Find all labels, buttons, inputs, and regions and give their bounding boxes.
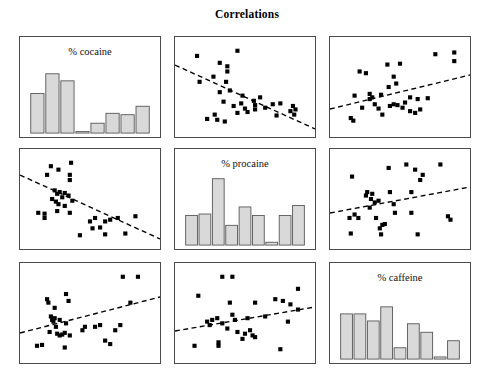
- data-point: [224, 80, 228, 84]
- data-point: [68, 211, 72, 215]
- data-point: [364, 193, 368, 197]
- data-point: [452, 50, 456, 54]
- panel-canvas: [20, 149, 160, 249]
- data-point: [245, 316, 249, 320]
- data-point: [379, 93, 383, 97]
- histogram-bar: [367, 321, 379, 359]
- data-point: [448, 218, 452, 222]
- data-point: [292, 113, 296, 117]
- data-point: [393, 211, 397, 215]
- trend-line: [330, 75, 470, 109]
- data-point: [45, 173, 49, 177]
- data-point: [63, 331, 67, 335]
- data-point: [223, 119, 227, 123]
- data-point: [50, 197, 54, 201]
- data-point: [196, 294, 200, 298]
- data-point: [230, 275, 234, 279]
- histogram-bar: [252, 215, 264, 245]
- data-point: [36, 211, 40, 215]
- data-point: [68, 178, 72, 182]
- panel-canvas: [20, 263, 160, 363]
- data-point: [352, 94, 356, 98]
- data-point: [258, 95, 262, 99]
- data-point: [68, 173, 72, 177]
- trend-line: [330, 187, 470, 213]
- data-point: [64, 321, 68, 325]
- histogram-bar: [394, 348, 406, 359]
- data-point: [278, 101, 282, 105]
- data-point: [35, 344, 39, 348]
- data-point: [253, 107, 257, 111]
- histogram-bar: [76, 132, 89, 133]
- data-point: [216, 344, 220, 348]
- data-point: [210, 318, 214, 322]
- data-point: [220, 321, 224, 325]
- data-point: [225, 64, 229, 68]
- data-point: [263, 314, 267, 318]
- histogram-bar: [341, 314, 353, 359]
- data-point: [103, 219, 107, 223]
- data-point: [197, 80, 201, 84]
- data-point: [80, 328, 84, 332]
- data-point: [288, 302, 292, 306]
- data-point: [228, 88, 232, 92]
- data-point: [49, 164, 53, 168]
- data-point: [113, 328, 117, 332]
- data-point: [378, 226, 382, 230]
- data-point: [239, 101, 243, 105]
- data-point: [240, 94, 244, 98]
- panel-canvas: [330, 37, 470, 137]
- data-point: [376, 199, 380, 203]
- data-point: [218, 61, 222, 65]
- panel-canvas: [175, 149, 315, 249]
- data-point: [233, 318, 237, 322]
- histogram-bar: [239, 207, 251, 245]
- scatterplot-matrix: Correlations % cocaine% procaine% caffei…: [0, 0, 494, 374]
- data-point: [426, 96, 430, 100]
- data-point: [388, 104, 392, 108]
- data-point: [123, 231, 127, 235]
- histogram-bar: [448, 341, 460, 359]
- trend-line: [175, 307, 315, 331]
- data-point: [438, 162, 442, 166]
- data-point: [68, 333, 72, 337]
- data-point: [418, 178, 422, 182]
- data-point: [350, 175, 354, 179]
- data-point: [55, 209, 59, 213]
- data-point: [271, 102, 275, 106]
- trend-line: [175, 65, 315, 129]
- data-point: [93, 216, 97, 220]
- data-point: [48, 330, 52, 334]
- histogram-bar: [199, 214, 211, 245]
- data-point: [252, 99, 256, 103]
- data-point: [66, 193, 70, 197]
- data-point: [70, 199, 74, 203]
- data-point: [408, 109, 412, 113]
- data-point: [352, 212, 356, 216]
- data-point: [360, 106, 364, 110]
- data-point: [374, 216, 378, 220]
- data-point: [281, 299, 285, 303]
- data-point: [376, 107, 380, 111]
- data-point: [128, 301, 132, 305]
- data-point: [358, 69, 362, 73]
- data-point: [243, 332, 247, 336]
- histogram-bar: [279, 215, 291, 245]
- histogram-bar: [266, 242, 278, 245]
- data-point: [232, 104, 236, 108]
- data-point: [368, 206, 372, 210]
- data-point: [235, 111, 239, 115]
- data-point: [416, 97, 420, 101]
- trend-line: [20, 175, 160, 239]
- histogram-bar: [434, 357, 446, 359]
- data-point: [395, 103, 399, 107]
- trend-line: [20, 297, 160, 333]
- data-point: [98, 323, 102, 327]
- data-point: [392, 102, 396, 106]
- data-point: [356, 216, 360, 220]
- histogram-bar: [121, 115, 134, 133]
- data-point: [263, 106, 267, 110]
- panel-canvas: [330, 263, 470, 363]
- data-point: [195, 54, 199, 58]
- data-point: [245, 110, 249, 114]
